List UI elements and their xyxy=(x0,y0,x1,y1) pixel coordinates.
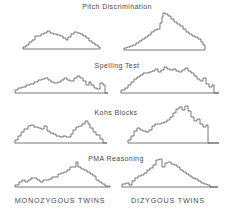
histogram-spelling-monozygous xyxy=(15,76,108,93)
histogram-pitch-monozygous xyxy=(23,31,100,49)
histogram-spelling-dizygous xyxy=(121,67,219,93)
column-label-dizygous: DIZYGOUS TWINS xyxy=(131,196,205,205)
histogram-pma-monozygous xyxy=(15,162,110,187)
histogram-kohs-dizygous xyxy=(128,106,219,143)
histogram-pitch-dizygous xyxy=(124,13,205,50)
histogram-kohs-monozygous xyxy=(15,121,107,143)
histogram-pma-dizygous xyxy=(122,159,218,187)
histogram-figure xyxy=(0,0,230,210)
column-label-monozygous: MONOZYGOUS TWINS xyxy=(15,196,106,205)
